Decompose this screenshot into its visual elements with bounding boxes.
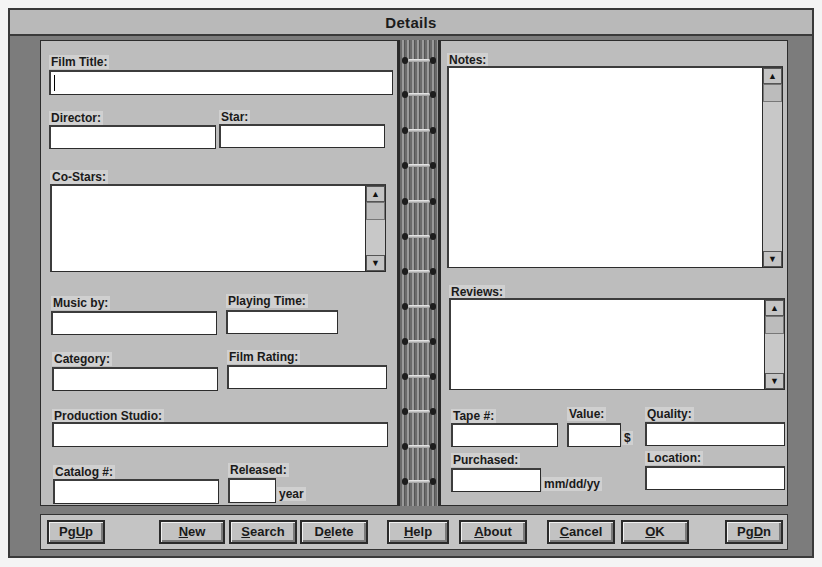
released-year-input[interactable] — [228, 478, 276, 503]
cancel-button[interactable]: Cancel — [547, 520, 615, 544]
production-studio-input[interactable] — [52, 422, 388, 447]
about-button[interactable]: About — [459, 520, 527, 544]
left-page: Film Title: Director: Star: Co-Stars: ▲ … — [40, 40, 398, 506]
purchased-date-format: mm/dd/yy — [542, 477, 602, 491]
window-title: Details — [385, 14, 436, 31]
location-input[interactable] — [645, 466, 785, 490]
notes-textarea[interactable]: ▲ ▼ — [447, 66, 783, 268]
director-input[interactable] — [49, 125, 216, 149]
tape-input[interactable] — [451, 423, 558, 447]
star-label: Star: — [219, 110, 250, 124]
reviews-textarea[interactable]: ▲ ▼ — [449, 298, 785, 390]
music-by-input[interactable] — [51, 311, 217, 335]
binder-ring-icon — [402, 197, 436, 207]
binder-ring-icon — [402, 407, 436, 417]
binder-ring-icon — [402, 372, 436, 382]
text-caret — [54, 75, 55, 91]
music-by-label: Music by: — [51, 296, 110, 310]
purchased-input[interactable] — [451, 468, 541, 492]
binder-ring-icon — [402, 56, 436, 66]
scroll-thumb[interactable] — [763, 84, 782, 102]
binder-ring-icon — [402, 442, 436, 452]
purchased-label: Purchased: — [451, 453, 520, 467]
quality-input[interactable] — [645, 422, 785, 446]
released-year-suffix: year — [277, 487, 306, 501]
category-input[interactable] — [52, 367, 218, 391]
film-title-label: Film Title: — [49, 55, 109, 69]
location-label: Location: — [645, 451, 703, 465]
catalog-input[interactable] — [53, 479, 219, 504]
binder-ring-icon — [402, 161, 436, 171]
new-button[interactable]: New — [159, 520, 225, 544]
released-label: Released: — [228, 463, 289, 477]
catalog-label: Catalog #: — [53, 465, 115, 479]
co-stars-scrollbar[interactable]: ▲ ▼ — [365, 186, 385, 271]
ok-button[interactable]: OK — [621, 520, 689, 544]
playing-time-input[interactable] — [226, 310, 338, 334]
reviews-label: Reviews: — [449, 285, 505, 299]
binder-ring-icon — [402, 232, 436, 242]
delete-button[interactable]: Delete — [300, 520, 368, 544]
film-rating-label: Film Rating: — [227, 350, 300, 364]
scroll-down-arrow-icon[interactable]: ▼ — [763, 251, 782, 267]
co-stars-label: Co-Stars: — [50, 170, 108, 184]
scroll-up-arrow-icon[interactable]: ▲ — [765, 300, 784, 316]
details-window: Details Film Title: Director: Star: Co-S… — [8, 8, 814, 558]
director-label: Director: — [49, 111, 103, 125]
right-page: Notes: ▲ ▼ Reviews: ▲ ▼ Tape #: Value: $… — [440, 40, 788, 506]
pgup-button[interactable]: PgUp — [47, 520, 105, 544]
scroll-down-arrow-icon[interactable]: ▼ — [366, 255, 385, 271]
binder-ring-icon — [402, 477, 436, 487]
reviews-scrollbar[interactable]: ▲ ▼ — [764, 300, 784, 389]
spiral-binding — [398, 40, 440, 506]
notes-scrollbar[interactable]: ▲ ▼ — [762, 68, 782, 267]
help-button[interactable]: Help — [387, 520, 449, 544]
film-title-input[interactable] — [49, 70, 393, 95]
scroll-up-arrow-icon[interactable]: ▲ — [366, 186, 385, 202]
binder-ring-icon — [402, 267, 436, 277]
scroll-down-arrow-icon[interactable]: ▼ — [765, 373, 784, 389]
category-label: Category: — [52, 352, 112, 366]
value-currency-suffix: $ — [622, 431, 633, 445]
quality-label: Quality: — [645, 407, 694, 421]
button-bar: PgUp New Search Delete Help About Cancel… — [40, 514, 788, 550]
binder-ring-icon — [402, 126, 436, 136]
title-bar[interactable]: Details — [10, 10, 812, 36]
scroll-up-arrow-icon[interactable]: ▲ — [763, 68, 782, 84]
production-studio-label: Production Studio: — [52, 409, 164, 423]
search-button[interactable]: Search — [229, 520, 297, 544]
value-input[interactable] — [567, 423, 621, 447]
binder-ring-icon — [402, 302, 436, 312]
binder-ring-icon — [402, 337, 436, 347]
playing-time-label: Playing Time: — [226, 294, 308, 308]
film-rating-input[interactable] — [227, 365, 387, 389]
star-input[interactable] — [219, 124, 385, 148]
binder-ring-icon — [402, 90, 436, 100]
scroll-thumb[interactable] — [765, 316, 784, 334]
value-label: Value: — [567, 407, 606, 421]
notes-label: Notes: — [447, 53, 488, 67]
tape-label: Tape #: — [451, 409, 496, 423]
scroll-thumb[interactable] — [366, 202, 385, 220]
pgdn-button[interactable]: PgDn — [725, 520, 783, 544]
co-stars-textarea[interactable]: ▲ ▼ — [50, 184, 386, 272]
